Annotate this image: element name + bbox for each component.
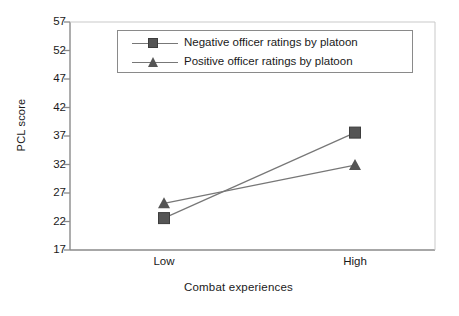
square-marker-icon [132,35,178,51]
legend-entry-negative: Negative officer ratings by platoon [132,34,358,52]
x-tick-label: High [343,256,367,268]
chart-legend: Negative officer ratings by platoon Posi… [117,30,413,73]
data-point-marker [159,213,170,224]
legend-label: Positive officer ratings by platoon [184,56,353,68]
chart-container: PCL score 57 52 47 42 37 32 27 22 17 [0,0,459,316]
data-point-marker [349,159,361,170]
x-tick-label: Low [153,256,174,268]
data-point-marker [350,127,361,138]
legend-entry-positive: Positive officer ratings by platoon [132,53,353,71]
legend-label: Negative officer ratings by platoon [184,37,358,49]
x-axis-title-text: Combat experiences [184,281,293,293]
triangle-marker-icon [132,54,178,70]
y-axis-ticks [64,22,70,250]
x-axis-tick-labels: Low High [0,256,459,272]
series-positive-officer-ratings [158,159,361,208]
x-axis-title: Combat experiences [0,281,459,293]
series-negative-officer-ratings [159,127,361,224]
